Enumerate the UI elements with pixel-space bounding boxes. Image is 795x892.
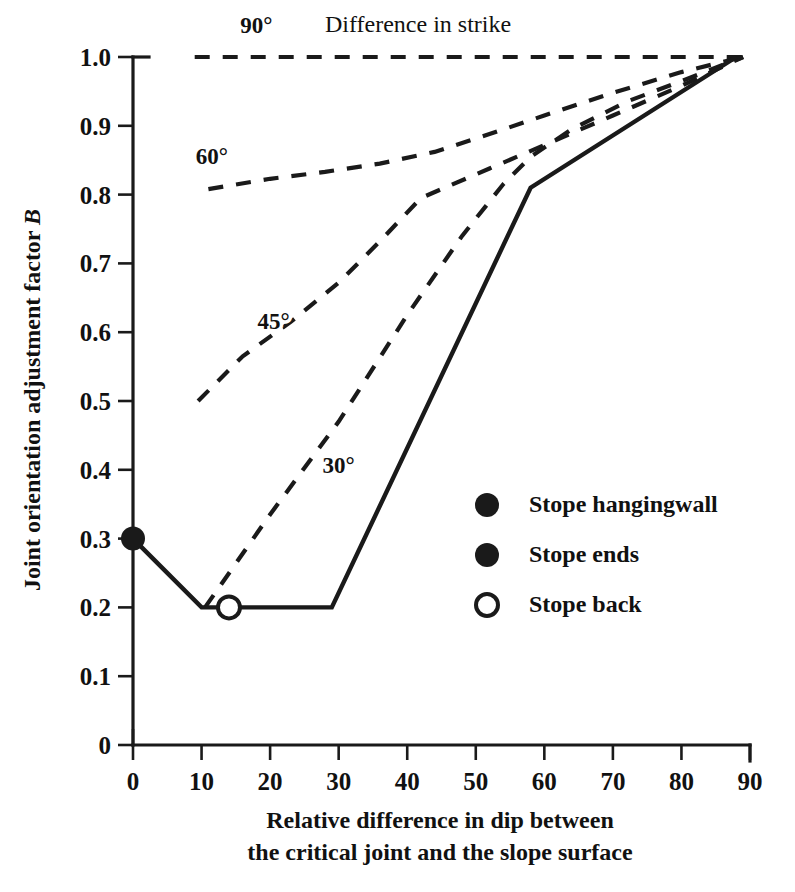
x-tick-label: 50 (463, 768, 488, 795)
data-point-markers (121, 527, 240, 619)
y-tick-label: 0.5 (80, 388, 111, 415)
y-axis-title-group: Joint orientation adjustment factor B (19, 209, 45, 591)
x-tick-label: 30 (326, 768, 351, 795)
x-tick-label: 40 (395, 768, 420, 795)
y-tick-label: 0.6 (80, 319, 111, 346)
x-tick-label: 80 (669, 768, 694, 795)
data-curves (133, 57, 743, 607)
x-tick-label: 0 (127, 768, 140, 795)
curve-label-60deg: 60° (196, 144, 228, 169)
x-tick-label: 60 (532, 768, 557, 795)
y-axis-title-symbol: B (19, 209, 45, 226)
x-tick-label: 90 (738, 768, 763, 795)
curve-stope-boundary (133, 57, 736, 607)
y-tick-label: 0.3 (80, 526, 111, 553)
x-axis-title-line1: Relative difference in dip between (266, 807, 614, 833)
y-tick-label: 0.4 (80, 457, 112, 484)
curve-45- (198, 57, 743, 401)
joint-orientation-chart: 00.10.20.30.40.50.60.70.80.91.0 01020304… (0, 0, 795, 892)
y-axis-title: Joint orientation adjustment factor B (19, 209, 45, 591)
legend-marker-filled-circle (475, 543, 499, 567)
x-tick-label: 20 (258, 768, 283, 795)
curve-label-90deg: 90° (240, 13, 272, 38)
chart-figure: 00.10.20.30.40.50.60.70.80.91.0 01020304… (0, 0, 795, 892)
y-tick-label: 0.9 (80, 113, 111, 140)
legend-marker-filled-circle (475, 493, 499, 517)
curve-label-30deg: 30° (323, 453, 355, 478)
legend-marker-open-circle (476, 594, 498, 616)
curve-series-labels: 90°60°45°30° (196, 13, 355, 478)
difference-in-strike-annotation: Difference in strike (325, 11, 511, 37)
stope-back-marker (218, 596, 240, 618)
y-tick-label: 1.0 (80, 44, 111, 71)
y-tick-label: 0.7 (80, 250, 111, 277)
legend-label: Stope hangingwall (529, 491, 718, 517)
x-axis-title-group: Relative difference in dip between the c… (247, 807, 633, 865)
legend-label: Stope ends (529, 541, 639, 567)
y-tick-label: 0.8 (80, 182, 111, 209)
legend-label: Stope back (529, 591, 642, 617)
x-tick-label: 10 (189, 768, 214, 795)
x-tick-label: 70 (600, 768, 625, 795)
x-axis-tick-labels: 0102030405060708090 (127, 768, 763, 795)
hangingwall-marker (121, 527, 145, 551)
x-axis-title-line2: the critical joint and the slope surface (247, 839, 633, 865)
y-axis-ticks (118, 57, 133, 745)
chart-legend: Stope hangingwallStope endsStope back (475, 491, 718, 617)
y-tick-label: 0 (99, 732, 112, 759)
y-axis-tick-labels: 00.10.20.30.40.50.60.70.80.91.0 (80, 44, 112, 759)
curve-label-45deg: 45° (257, 309, 289, 334)
y-axis-title-text: Joint orientation adjustment factor (19, 225, 45, 591)
curve-60- (208, 57, 743, 189)
y-tick-label: 0.1 (80, 663, 111, 690)
y-tick-label: 0.2 (80, 594, 111, 621)
